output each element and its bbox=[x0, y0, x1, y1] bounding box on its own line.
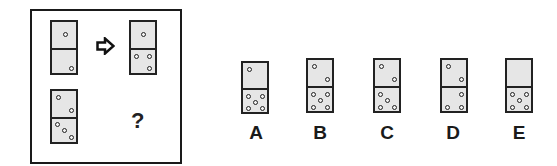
pip-icon bbox=[147, 54, 152, 59]
domino-bottom-half bbox=[52, 48, 76, 74]
domino-bottom-half bbox=[507, 86, 531, 112]
pip-icon bbox=[459, 92, 464, 97]
domino-bottom-half bbox=[131, 48, 155, 74]
pip-icon bbox=[246, 94, 251, 99]
pip-icon bbox=[379, 64, 384, 69]
pip-icon bbox=[446, 64, 451, 69]
pip-icon bbox=[510, 92, 515, 97]
domino-top-half bbox=[375, 60, 399, 86]
domino-top-half bbox=[442, 60, 466, 86]
pip-icon bbox=[141, 32, 146, 37]
pip-icon bbox=[63, 32, 68, 37]
domino-top-half bbox=[308, 60, 332, 86]
right-arrow-icon bbox=[96, 37, 115, 55]
pip-icon bbox=[318, 98, 323, 103]
option-b-label[interactable]: B bbox=[306, 123, 334, 142]
domino-bottom-half bbox=[308, 86, 332, 112]
pip-icon bbox=[517, 98, 522, 103]
pip-icon bbox=[392, 105, 397, 110]
pip-icon bbox=[459, 77, 464, 82]
option-e-label[interactable]: E bbox=[505, 123, 533, 142]
example-target-domino bbox=[129, 20, 157, 75]
domino-top-half bbox=[52, 22, 76, 48]
pip-icon bbox=[325, 105, 330, 110]
pip-icon bbox=[510, 105, 515, 110]
pip-icon bbox=[147, 66, 152, 71]
domino-bottom-half bbox=[243, 88, 267, 113]
pip-icon bbox=[311, 92, 316, 97]
pip-icon bbox=[445, 105, 450, 110]
pip-icon bbox=[69, 66, 74, 71]
pip-icon bbox=[378, 92, 383, 97]
option-b-domino[interactable] bbox=[306, 58, 334, 113]
pip-icon bbox=[325, 77, 330, 82]
option-d-label[interactable]: D bbox=[439, 123, 467, 142]
pip-icon bbox=[69, 135, 74, 140]
pip-icon bbox=[311, 105, 316, 110]
example-source-domino bbox=[50, 20, 78, 75]
domino-bottom-half bbox=[52, 117, 76, 143]
domino-bottom-half bbox=[442, 86, 466, 112]
option-e-domino[interactable] bbox=[505, 58, 533, 113]
pip-icon bbox=[56, 95, 61, 100]
domino-top-half bbox=[131, 22, 155, 48]
domino-bottom-half bbox=[375, 86, 399, 112]
pip-icon bbox=[524, 92, 529, 97]
pip-icon bbox=[134, 54, 139, 59]
pip-icon bbox=[459, 105, 464, 110]
pip-icon bbox=[260, 106, 265, 111]
domino-top-half bbox=[243, 63, 267, 88]
pip-icon bbox=[385, 98, 390, 103]
pip-icon bbox=[247, 67, 252, 72]
question-mark: ? bbox=[131, 110, 144, 132]
domino-top-half bbox=[52, 91, 76, 117]
pip-icon bbox=[62, 128, 67, 133]
pip-icon bbox=[55, 122, 60, 127]
pip-icon bbox=[325, 92, 330, 97]
pip-icon bbox=[253, 100, 258, 105]
domino-top-half bbox=[507, 60, 531, 86]
pip-icon bbox=[378, 105, 383, 110]
pip-icon bbox=[69, 108, 74, 113]
question-source-domino bbox=[50, 89, 78, 144]
pip-icon bbox=[524, 105, 529, 110]
pip-icon bbox=[260, 94, 265, 99]
option-c-domino[interactable] bbox=[373, 58, 401, 113]
option-c-label[interactable]: C bbox=[373, 123, 401, 142]
option-d-domino[interactable] bbox=[440, 58, 468, 113]
pip-icon bbox=[246, 106, 251, 111]
option-a-domino[interactable] bbox=[241, 61, 269, 114]
pip-icon bbox=[312, 64, 317, 69]
pip-icon bbox=[392, 77, 397, 82]
option-a-label[interactable]: A bbox=[242, 123, 270, 142]
